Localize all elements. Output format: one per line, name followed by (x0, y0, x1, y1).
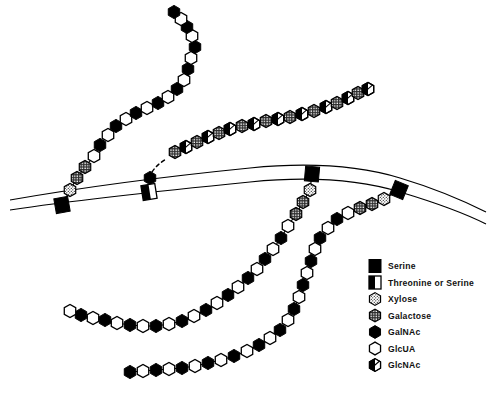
residue-galnac-14 (176, 314, 187, 327)
residue-galactose-5 (213, 126, 224, 139)
legend-item-serine: Serine (369, 260, 416, 273)
residue-galnac-10 (222, 288, 233, 301)
residue-glcua-19 (111, 316, 122, 329)
residue-xylose-0 (304, 183, 315, 196)
legend-label-threonine_or_serine: Threonine or Serine (388, 278, 474, 288)
symbol-legend: SerineThreonine or SerineXyloseGalactose… (369, 260, 474, 372)
residue-galnac-18 (124, 318, 135, 331)
residue-galactose-9 (260, 114, 271, 127)
residue-glcua-15 (264, 331, 275, 344)
residue-galactose-1 (169, 145, 180, 158)
glycan-chains (62, 5, 399, 378)
legend-item-galactose: Galactose (369, 309, 431, 322)
dashed-linker (152, 159, 166, 172)
residue-galnac-20 (99, 313, 110, 326)
residue-galactose-3 (191, 135, 202, 148)
residue-glcua-7 (309, 242, 320, 255)
residue-galactose-1 (71, 171, 82, 184)
residue-glcua-15 (163, 317, 174, 330)
legend-label-serine: Serine (388, 261, 416, 271)
threonine-site-middle (141, 183, 157, 200)
legend-swatch-glcnac (369, 359, 380, 372)
residue-glcua-5 (267, 242, 278, 255)
residue-galactose-2 (354, 201, 365, 214)
residue-galnac-4 (94, 138, 105, 151)
residue-glcua-3 (282, 219, 293, 232)
residue-glcua-11 (293, 290, 304, 303)
residue-galnac-4 (275, 231, 286, 244)
residue-galactose-13 (308, 104, 319, 117)
residue-glcua-3 (88, 149, 99, 162)
residue-galnac-20 (202, 356, 213, 369)
serine-site-center-right (304, 166, 319, 182)
residue-glcnac-2 (180, 140, 191, 153)
legend-label-galactose: Galactose (388, 311, 431, 321)
legend-label-glcnac: GlcNAc (388, 360, 421, 370)
residue-galactose-11 (284, 110, 295, 123)
legend-label-galnac: GalNAc (388, 327, 421, 337)
residue-galnac-0 (144, 171, 155, 184)
residue-glcua-5 (322, 221, 333, 234)
residue-galactose-1 (366, 197, 377, 210)
serine-site-left (54, 196, 70, 213)
residue-glcua-23 (163, 362, 174, 375)
residue-galnac-22 (176, 361, 187, 374)
legend-item-xylose: Xylose (369, 293, 417, 306)
residue-galactose-15 (331, 96, 342, 109)
residue-galnac-16 (253, 338, 264, 351)
legend-swatch-threonine_or_serine (369, 276, 381, 289)
residue-galnac-22 (75, 308, 86, 321)
residue-glcnac-12 (296, 107, 307, 120)
legend-swatch-galnac (369, 326, 380, 339)
legend-item-glcua: GlcUA (369, 342, 415, 355)
residue-galnac-6 (259, 252, 270, 265)
legend-label-glcua: GlcUA (388, 344, 416, 354)
residue-glcua-17 (241, 344, 252, 357)
residue-glcua-17 (137, 319, 148, 332)
chain-right-descending (124, 190, 399, 379)
residue-glcnac-6 (224, 122, 235, 135)
residue-galactose-1 (297, 195, 308, 208)
residue-glcnac-14 (320, 100, 331, 113)
residue-glcua-21 (189, 359, 200, 372)
residue-glcua-3 (342, 206, 353, 219)
residue-galactose-2 (290, 207, 301, 220)
legend-swatch-glcua (369, 342, 380, 355)
residue-galactose-2 (79, 160, 90, 173)
residue-galnac-8 (305, 254, 316, 267)
residue-galnac-8 (242, 271, 253, 284)
residue-galnac-12 (200, 303, 211, 316)
legend-item-glcnac: GlcNAc (369, 359, 420, 372)
serine-site-right (390, 180, 409, 199)
residue-galnac-16 (150, 319, 161, 332)
residue-galnac-10 (297, 278, 308, 291)
proteoglycan-diagram: SerineThreonine or SerineXyloseGalactose… (0, 0, 492, 397)
residue-xylose-0 (64, 183, 75, 196)
residue-glcua-13 (188, 309, 199, 322)
residue-galnac-8 (130, 106, 141, 119)
legend-item-threonine_or_serine: Threonine or Serine (369, 276, 474, 289)
legend-swatch-xylose (369, 293, 380, 306)
legend-swatch-galactose (369, 309, 380, 322)
residue-glcua-23 (64, 304, 75, 317)
residue-glcua-9 (141, 101, 152, 114)
residue-glcnac-10 (272, 112, 283, 125)
residue-glcnac-4 (202, 130, 213, 143)
residue-glcua-21 (87, 311, 98, 324)
residue-glcua-7 (251, 262, 262, 275)
residue-glcua-13 (282, 313, 293, 326)
legend-swatch-serine (369, 260, 381, 273)
residue-glcnac-18 (362, 82, 373, 95)
residue-xylose-0 (378, 192, 389, 205)
residue-glcua-25 (137, 364, 148, 377)
residue-glcua-19 (215, 353, 226, 366)
residue-glcnac-8 (248, 117, 259, 130)
core-protein-bottom-edge (10, 179, 486, 224)
residue-galnac-26 (124, 365, 135, 378)
legend-item-galnac: GalNAc (369, 326, 420, 339)
legend-label-xylose: Xylose (388, 294, 417, 304)
residue-galnac-18 (228, 349, 239, 362)
residue-galnac-12 (288, 302, 299, 315)
residue-galactose-7 (236, 119, 247, 132)
residue-galnac-20 (168, 5, 179, 18)
